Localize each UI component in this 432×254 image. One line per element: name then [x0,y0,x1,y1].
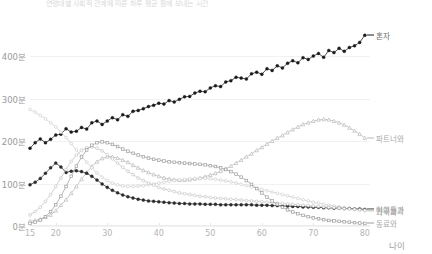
data-point [291,196,294,199]
y-axis-tick-label: 300분 [2,93,26,105]
data-point [70,142,73,145]
data-point [142,107,145,110]
data-point [70,175,73,178]
data-point [317,205,320,208]
data-point [338,47,341,50]
data-point [214,172,218,175]
data-point [188,95,191,98]
data-point [235,203,238,206]
data-point [307,58,310,61]
data-point [132,185,135,188]
data-point [199,177,202,180]
data-point [70,160,73,163]
data-point [286,62,289,65]
data-point [296,61,299,64]
data-point [209,173,213,176]
data-point [224,80,227,83]
data-point [152,200,155,203]
data-point [245,77,248,80]
data-point [147,105,150,108]
data-point [34,181,37,184]
data-point [193,91,196,94]
data-point [136,166,140,169]
data-point [291,128,295,131]
legend-leader-line [367,138,374,139]
data-point [39,219,42,222]
data-point [255,187,258,190]
data-point [353,44,356,47]
data-point [95,160,99,163]
data-point [209,164,212,167]
data-point [163,188,166,191]
data-point [59,165,62,168]
x-axis-tick-label: 50 [205,229,215,238]
data-point [157,102,160,105]
data-point [291,59,294,62]
legend-label-동료와: 동료와 [376,218,397,229]
data-point [266,189,269,192]
data-point [60,195,63,198]
data-point [214,203,217,206]
data-point [85,161,88,164]
data-point [157,186,160,189]
data-point [44,118,47,121]
data-point [142,155,145,158]
data-point [106,179,109,182]
data-point [54,185,57,188]
data-point [224,180,227,183]
data-point [168,189,171,192]
data-point [245,203,248,206]
data-point [302,198,305,201]
data-point [229,79,232,82]
data-point [121,113,124,116]
data-point [106,120,109,123]
data-point [255,204,258,207]
data-point [343,50,346,53]
data-point [307,204,310,207]
data-point [286,131,290,134]
data-point [29,183,32,186]
data-point [44,215,47,218]
data-point [116,162,119,165]
data-point [111,116,114,119]
data-point [193,202,196,205]
data-point [65,168,68,171]
data-point [214,178,217,181]
data-point [343,220,346,223]
data-point [29,222,32,225]
data-point [296,197,299,200]
data-point [327,219,330,222]
data-point [281,66,284,69]
data-point [116,156,120,159]
data-point [266,201,269,204]
data-point [276,192,279,195]
data-point [327,49,330,52]
data-point [132,173,135,176]
data-point [85,149,88,152]
data-point [168,161,171,164]
data-point [126,170,129,173]
data-point [34,141,37,144]
x-axis-tick-label: 30 [102,229,112,238]
data-point [271,191,274,194]
data-point [312,205,315,208]
plot-area: 0분100분200분300분400분 1520304050607080 [30,22,370,226]
data-point [194,163,197,166]
data-point [111,143,114,146]
data-point [214,197,217,200]
data-point [260,188,263,191]
data-point [90,166,93,169]
data-point [281,206,284,209]
y-axis-tick-label: 400분 [2,50,26,62]
data-point [327,206,330,209]
data-point [296,203,299,206]
data-point [137,198,140,201]
data-point [39,177,42,180]
data-point [183,178,186,181]
data-point [101,149,104,152]
data-point [91,144,94,147]
data-point [137,154,140,157]
data-point [322,56,325,59]
data-point [286,203,289,206]
data-point [302,56,305,59]
